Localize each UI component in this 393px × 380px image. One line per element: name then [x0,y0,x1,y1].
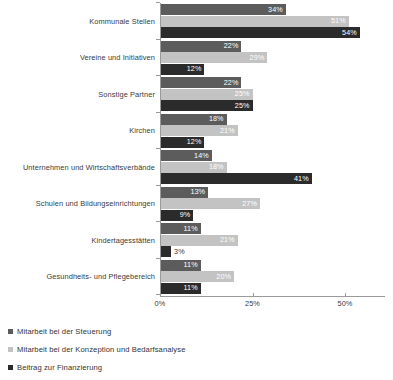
legend-item: Mitarbeit bei der Konzeption und Bedarfs… [8,340,388,358]
bar-value-label: 13% [190,188,205,195]
bar-value-label: 20% [216,273,231,280]
legend-item: Beitrag zur Finanzierung [8,358,388,376]
category-label: Kommunale Stellen [89,17,155,26]
bar-value-label: 12% [187,66,202,73]
bar: 11% [160,283,201,294]
bar-value-label: 29% [250,54,265,61]
bar: 22% [160,41,241,52]
bar-value-label: 11% [184,261,198,268]
bar: 11% [160,223,201,234]
category-label: Vereine und Initiativen [80,53,155,62]
legend-swatch-icon [8,347,13,352]
bar: 9% [160,210,193,221]
bar-value-label: 27% [242,200,257,207]
x-axis-tick-label: 50% [337,299,352,308]
bar: 25% [160,100,253,111]
category-label: Sonstige Partner [98,90,155,99]
legend-swatch-icon [8,365,13,370]
x-axis-tick [253,293,254,297]
category-label: Kirchen [129,126,155,135]
bar-value-label: 22% [224,79,239,86]
legend-label: Mitarbeit bei der Steuerung [17,327,111,336]
bar: 29% [160,52,267,63]
bar-value-label: 11% [184,225,198,232]
bar-value-label: 18% [209,115,224,122]
bar: 12% [160,137,204,148]
bar: 13% [160,187,208,198]
bar: 3% [160,246,171,257]
bar: 54% [160,27,360,38]
bar-value-label: 18% [209,163,224,170]
bar: 22% [160,77,241,88]
bar: 21% [160,125,238,136]
bar-value-label: 14% [194,152,209,159]
x-axis-line [160,296,385,297]
bar: 18% [160,114,227,125]
bar-value-label: 25% [235,90,250,97]
bar: 12% [160,64,204,75]
x-axis-tick-label: 25% [245,299,260,308]
bar: 20% [160,271,234,282]
bar: 14% [160,150,212,161]
bar-value-label: 12% [187,139,202,146]
bar: 27% [160,198,260,209]
category-label: Unternehmen und Wirtschaftsverbände [23,163,155,172]
y-axis-line [160,3,161,296]
bar-value-label: 54% [342,29,357,36]
category-label: Kindertagesstätten [92,236,155,245]
bar: 25% [160,89,253,100]
bar-value-label: 3% [174,248,185,255]
bar-value-label: 41% [294,175,309,182]
bar: 11% [160,260,201,271]
bar-value-label: 22% [224,42,239,49]
chart-legend: Mitarbeit bei der SteuerungMitarbeit bei… [8,322,388,376]
legend-item: Mitarbeit bei der Steuerung [8,322,388,340]
legend-swatch-icon [8,329,13,334]
bar-value-label: 25% [235,102,250,109]
bar: 21% [160,235,238,246]
category-label: Schulen und Bildungseinrichtungen [36,199,155,208]
bar-value-label: 21% [220,236,235,243]
plot-area: Kommunale StellenVereine und Initiativen… [0,0,393,300]
bar-chart: Kommunale StellenVereine und Initiativen… [0,0,393,380]
bar: 18% [160,162,227,173]
bar: 34% [160,4,286,15]
category-label: Gesundheits- und Pflegebereich [46,272,155,281]
bar-value-label: 11% [184,285,198,292]
bar: 51% [160,16,349,27]
x-axis-tick-label: 0% [155,299,166,308]
bar-value-label: 34% [268,6,283,13]
bar-value-label: 51% [331,17,346,24]
bar: 41% [160,173,312,184]
bar-value-label: 21% [220,127,235,134]
x-axis-tick [345,293,346,297]
legend-label: Mitarbeit bei der Konzeption und Bedarfs… [17,345,186,354]
bar-value-label: 9% [180,212,191,219]
legend-label: Beitrag zur Finanzierung [17,363,102,372]
